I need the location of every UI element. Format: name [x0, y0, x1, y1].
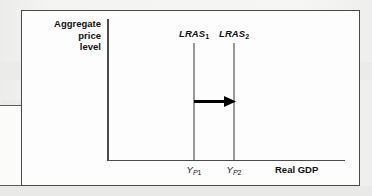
y-axis-title-line-1: Aggregate	[22, 18, 101, 30]
y-axis-line	[107, 19, 109, 161]
lras1-label: LRAS1	[179, 28, 209, 39]
y-axis-title-line-3: level	[22, 41, 101, 53]
scanned-page-background: Short-Run M e prod ong-run lion Aggregat…	[0, 0, 372, 196]
yp1-sub-number: 1	[198, 169, 202, 176]
yp2-sub-number: 2	[238, 169, 242, 176]
lras1-label-subscript: 1	[205, 33, 209, 40]
lras2-label: LRAS2	[219, 28, 249, 39]
lras1-label-base: LRAS	[179, 28, 205, 39]
lras2-label-base: LRAS	[219, 28, 245, 39]
lras2-label-subscript: 2	[245, 33, 249, 40]
x-tick-label-yp2: YP2	[227, 164, 242, 175]
figure-frame: Aggregate price level Real GDP LRAS1 LRA…	[21, 10, 360, 186]
bleed-band-lower	[0, 186, 372, 196]
x-tick-label-yp1: YP1	[187, 164, 202, 175]
y-axis-title: Aggregate price level	[22, 18, 101, 53]
x-axis-title: Real GDP	[275, 164, 318, 175]
rightward-shift-arrow	[194, 95, 236, 108]
y-axis-title-line-2: price	[22, 30, 101, 42]
x-axis-line	[107, 160, 345, 162]
